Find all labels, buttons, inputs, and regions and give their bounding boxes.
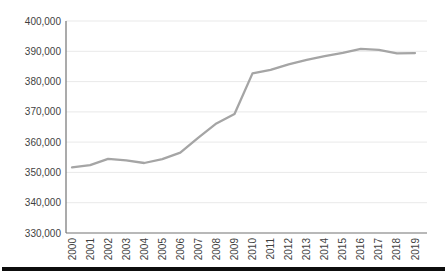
- data-series-line: [72, 49, 415, 167]
- y-axis-tick-label: 370,000: [25, 106, 62, 117]
- x-axis-tick-label: 2001: [85, 238, 96, 261]
- y-axis-tick-label: 360,000: [25, 137, 62, 148]
- x-axis-tick-label: 2005: [157, 238, 168, 261]
- x-axis-tick-label: 2010: [247, 238, 258, 261]
- y-axis-tick-label: 340,000: [25, 197, 62, 208]
- y-axis-tick-label: 390,000: [25, 46, 62, 57]
- x-axis-tick-label: 2003: [121, 238, 132, 261]
- y-axis-tick-label: 350,000: [25, 167, 62, 178]
- x-axis-tick-label: 2017: [373, 238, 384, 261]
- x-axis-tick-label: 2019: [410, 238, 421, 261]
- y-axis-tick-label: 330,000: [25, 228, 62, 239]
- x-axis-tick-label: 2000: [67, 238, 78, 261]
- x-axis-tick-label: 2008: [211, 238, 222, 261]
- y-axis-tick-label: 380,000: [25, 76, 62, 87]
- x-axis-tick-label: 2014: [319, 238, 330, 261]
- x-axis-tick-label: 2004: [139, 238, 150, 261]
- x-axis-tick-label: 2006: [175, 238, 186, 261]
- y-axis-tick-label: 400,000: [25, 16, 62, 27]
- x-axis-tick-label: 2002: [103, 238, 114, 261]
- x-axis-tick-label: 2011: [265, 238, 276, 260]
- line-chart: 330,000340,000350,000360,000370,000380,0…: [0, 0, 447, 267]
- x-axis-tick-label: 2012: [283, 238, 294, 261]
- page: 330,000340,000350,000360,000370,000380,0…: [0, 0, 447, 277]
- x-axis-tick-label: 2009: [229, 238, 240, 261]
- x-axis-tick-label: 2015: [337, 238, 348, 261]
- x-axis-tick-label: 2016: [355, 238, 366, 261]
- x-axis-tick-label: 2013: [301, 238, 312, 261]
- x-axis-tick-label: 2007: [193, 238, 204, 261]
- x-axis-tick-label: 2018: [391, 238, 402, 261]
- line-chart-figure: 330,000340,000350,000360,000370,000380,0…: [0, 0, 447, 267]
- bottom-divider-rule: [2, 267, 445, 271]
